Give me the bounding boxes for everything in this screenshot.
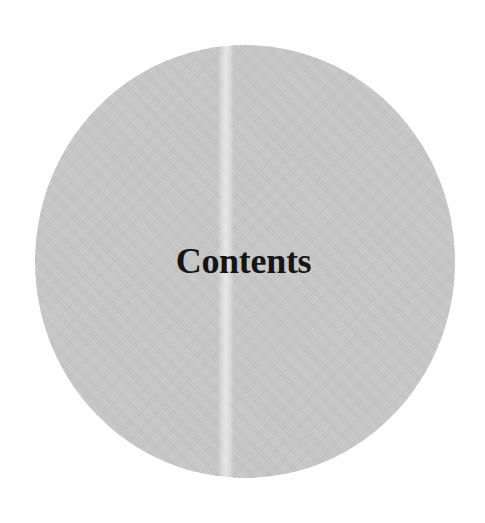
page-title: Contents (0, 241, 485, 281)
page: Contents (0, 0, 485, 523)
